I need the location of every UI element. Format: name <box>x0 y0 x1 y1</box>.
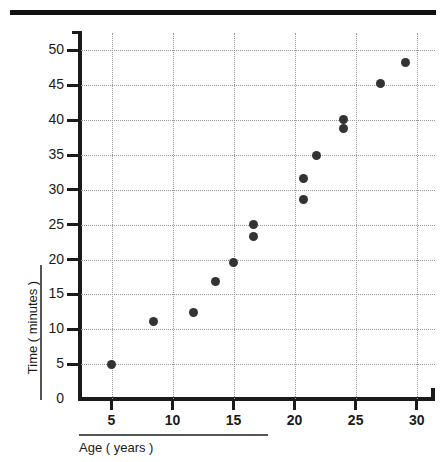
data-point <box>249 232 258 241</box>
gridline-horizontal <box>81 120 435 121</box>
x-tick-mark <box>232 399 235 410</box>
y-tick-label: 50 <box>34 41 64 57</box>
top-divider-bar <box>10 10 436 15</box>
data-point <box>149 317 158 326</box>
x-tick-mark <box>110 399 113 410</box>
y-tick-label: 40 <box>34 111 64 127</box>
y-tick-label: 35 <box>34 146 64 162</box>
data-point <box>339 115 348 124</box>
gridline-horizontal <box>81 364 435 365</box>
gridline-horizontal <box>81 260 435 261</box>
y-tick-mark <box>67 363 78 366</box>
y-tick-mark <box>67 328 78 331</box>
data-point <box>107 360 116 369</box>
gridline-vertical <box>112 33 113 399</box>
data-point <box>211 277 220 286</box>
y-tick-label: 25 <box>34 216 64 232</box>
gridline-horizontal <box>81 190 435 191</box>
gridline-vertical <box>295 33 296 399</box>
y-tick-mark <box>67 293 78 296</box>
gridline-vertical <box>234 33 235 399</box>
x-tick-mark <box>293 399 296 410</box>
data-point <box>299 195 308 204</box>
gridline-vertical <box>173 33 174 399</box>
data-point <box>229 258 238 267</box>
x-tick-label: 25 <box>336 412 376 428</box>
y-tick-mark <box>67 223 78 226</box>
scatter-plot-figure: 05101520253035404550 51015202530 Age ( y… <box>0 0 444 462</box>
gridline-vertical <box>417 33 418 399</box>
x-tick-mark <box>354 399 357 410</box>
gridline-horizontal <box>81 50 435 51</box>
x-tick-mark <box>171 399 174 410</box>
data-point <box>339 124 348 133</box>
gridline-horizontal <box>81 155 435 156</box>
y-tick-mark <box>67 49 78 52</box>
data-point <box>249 220 258 229</box>
data-point <box>401 58 410 67</box>
x-tick-label: 5 <box>92 412 132 428</box>
y-tick-label: 45 <box>34 76 64 92</box>
gridline-horizontal <box>81 225 435 226</box>
y-tick-mark <box>67 188 78 191</box>
x-tick-label: 20 <box>275 412 315 428</box>
y-tick-label: 30 <box>34 181 64 197</box>
gridline-vertical <box>356 33 357 399</box>
x-tick-label: 15 <box>214 412 254 428</box>
y-tick-mark <box>67 154 78 157</box>
x-tick-label: 30 <box>397 412 437 428</box>
gridline-horizontal <box>81 329 435 330</box>
x-axis-title: Age ( years ) <box>79 440 153 455</box>
gridline-horizontal <box>81 294 435 295</box>
y-tick-mark <box>67 258 78 261</box>
data-point <box>189 308 198 317</box>
x-tick-label: 10 <box>153 412 193 428</box>
y-tick-mark <box>67 84 78 87</box>
y-tick-mark <box>67 119 78 122</box>
data-point <box>299 174 308 183</box>
data-point <box>312 151 321 160</box>
plot-area <box>81 33 435 399</box>
y-axis-title: Time ( minutes ) <box>25 248 40 408</box>
data-point <box>376 79 385 88</box>
y-axis-title-rule <box>40 265 42 400</box>
x-tick-mark <box>415 399 418 410</box>
x-axis-title-rule <box>79 434 268 436</box>
